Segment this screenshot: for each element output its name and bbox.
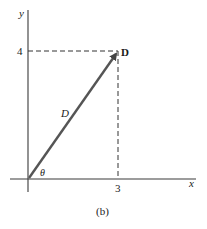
y-axis-label: y [18,7,24,19]
x-tick-label: 3 [115,182,121,194]
vector-arrow [29,54,116,178]
magnitude-label: D [60,107,69,119]
vector-name-label: D [121,46,129,58]
figure-caption: (b) [96,205,109,218]
y-tick-label: 4 [17,45,23,57]
vector-diagram: y x 4 3 D D θ (b) [0,0,207,229]
angle-label: θ [40,167,45,178]
x-axis-label: x [188,177,194,189]
